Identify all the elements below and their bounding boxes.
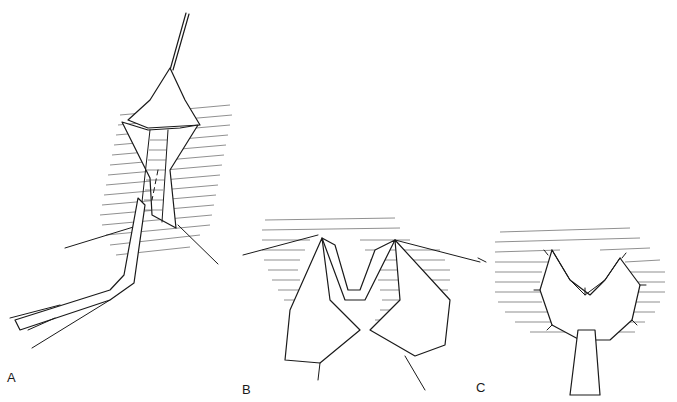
panel-c-illustration [0,0,677,402]
surgical-figure: A B C [0,0,677,402]
panel-label-c: C [476,380,485,395]
